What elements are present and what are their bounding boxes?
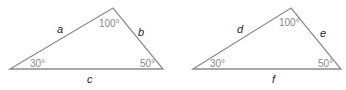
angle-label-right: 50° xyxy=(140,58,155,69)
angle-label-top: 100° xyxy=(99,18,120,29)
side-label-f: f xyxy=(272,73,276,85)
side-label-b: b xyxy=(138,26,144,38)
side-label-e: e xyxy=(320,27,326,39)
triangle-1: a b c 30° 100° 50° xyxy=(10,8,163,85)
side-label-c: c xyxy=(87,73,93,85)
angle-label-top: 100° xyxy=(279,17,300,28)
similar-triangles-diagram: a b c 30° 100° 50° d e f 30° 100° 50° xyxy=(0,0,346,90)
side-label-a: a xyxy=(57,23,63,35)
triangle-2: d e f 30° 100° 50° xyxy=(193,8,341,85)
angle-label-left: 30° xyxy=(210,58,225,69)
side-label-d: d xyxy=(237,23,244,35)
angle-label-right: 50° xyxy=(318,58,333,69)
angle-label-left: 30° xyxy=(30,58,45,69)
